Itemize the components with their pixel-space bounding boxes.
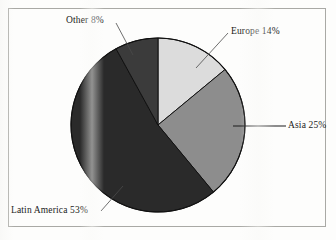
pie-chart: Other 8% Europe 14% Asia 25% Latin Ameri…: [0, 0, 336, 240]
figure-caption-clip: SOURCES OF IMMIGRATION, 1820-2000 The ch…: [0, 230, 336, 240]
pie-label-other: Other 8%: [66, 15, 104, 26]
pie-label-latin-america: Latin America 53%: [11, 205, 88, 216]
pie-chart-svg: [0, 0, 336, 240]
pie-label-asia: Asia 25%: [288, 120, 326, 131]
pie-label-europe: Europe 14%: [231, 26, 280, 37]
figure-page: Other 8% Europe 14% Asia 25% Latin Ameri…: [0, 0, 336, 240]
